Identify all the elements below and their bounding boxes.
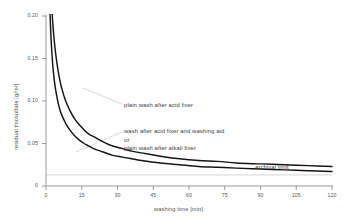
x-tick-label-90: 90: [251, 192, 271, 198]
y-tick-label-0: 0: [16, 182, 38, 188]
y-tick-label-0.15: 0.15: [16, 55, 38, 61]
y-axis-ticks: [42, 16, 46, 186]
y-tick-label-0.20: 0.20: [16, 12, 38, 18]
x-axis-title: washing time [min]: [154, 206, 203, 212]
y-tick-label-0.10: 0.10: [16, 97, 38, 103]
y-axis-title: residual thiosulfate [g/m²]: [13, 83, 19, 150]
chart-container: 0.20 0.15 0.10 0.05 0 0 15 30 45 60 75 9…: [0, 0, 344, 221]
x-tick-label-45: 45: [143, 192, 163, 198]
top-clip-mask: [0, 0, 344, 14]
x-axis-ticks: [46, 186, 332, 190]
x-tick-label-120: 120: [322, 192, 342, 198]
x-tick-label-0: 0: [36, 192, 56, 198]
x-tick-label-15: 15: [72, 192, 92, 198]
annotation-archival-limit: archival limit: [255, 163, 289, 172]
y-tick-label-0.05: 0.05: [16, 140, 38, 146]
annotation-lower-curve-line3: plain wash after alkali fixer: [124, 144, 196, 153]
chart-plot-area: [0, 0, 344, 221]
leader-upper: [83, 88, 122, 104]
x-tick-label-60: 60: [179, 192, 199, 198]
annotation-lower-curve-line1: wash after acid fixer and washing aid: [124, 127, 224, 136]
x-tick-label-30: 30: [108, 192, 128, 198]
x-tick-label-105: 105: [286, 192, 306, 198]
annotation-upper-curve: plain wash after acid fixer: [124, 101, 193, 110]
x-tick-label-75: 75: [215, 192, 235, 198]
series-line-plain-acid-fixer: [51, 0, 332, 166]
annotation-lower-curve-line2: or: [124, 136, 129, 145]
